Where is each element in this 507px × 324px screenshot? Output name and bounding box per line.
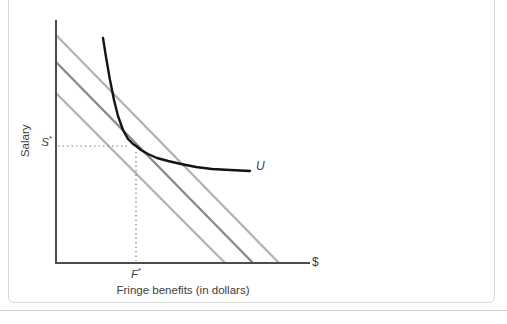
x-axis-label: Fringe benefits (in dollars) — [56, 285, 310, 297]
x-axis-dollar-label: $ — [312, 256, 319, 268]
isoprofit-line-upper — [56, 35, 279, 263]
axes — [56, 20, 310, 263]
indifference-curve-label: U — [256, 160, 265, 172]
isoprofit-line-middle — [56, 62, 253, 263]
chart-svg — [0, 0, 507, 324]
isoprofit-line-lower — [56, 93, 225, 263]
f-star-label: F* — [124, 267, 148, 280]
s-star-label: S* — [28, 135, 52, 148]
